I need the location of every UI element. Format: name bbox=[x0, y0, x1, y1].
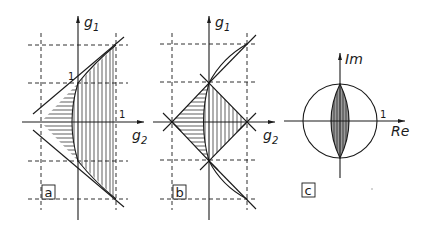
stray-dot bbox=[371, 188, 372, 189]
cross-mark bbox=[247, 122, 256, 131]
cross-mark bbox=[200, 161, 209, 170]
axis-label-g2: g2 bbox=[132, 127, 147, 146]
axis-label-re: Re bbox=[391, 123, 409, 139]
panel-c: Im Re 1 c bbox=[284, 51, 409, 198]
tick-label-1: 1 bbox=[119, 109, 125, 120]
cross-mark bbox=[163, 122, 172, 131]
arrow-icon bbox=[207, 16, 211, 23]
tick-label-1: 1 bbox=[68, 71, 74, 82]
panel-b: g1 g2 b bbox=[153, 14, 278, 220]
panel-tag-a: a bbox=[45, 185, 53, 200]
panel-tag-b: b bbox=[176, 185, 184, 200]
axis-label-g1: g1 bbox=[84, 14, 99, 33]
arrow-icon bbox=[338, 53, 342, 60]
tick-label-1: 1 bbox=[380, 109, 386, 120]
figure-canvas: g1 g2 1 1 a bbox=[0, 0, 425, 225]
panel-a: g1 g2 1 1 a bbox=[22, 14, 147, 220]
axis-label-g2: g2 bbox=[263, 127, 278, 146]
axis-label-im: Im bbox=[345, 51, 363, 67]
axis-label-g1: g1 bbox=[215, 14, 230, 33]
boundary-line-upper bbox=[209, 35, 256, 83]
arrow-icon bbox=[268, 120, 275, 124]
arrow-icon bbox=[137, 120, 144, 124]
panel-tag-c: c bbox=[305, 183, 312, 198]
arrow-icon bbox=[76, 16, 80, 23]
